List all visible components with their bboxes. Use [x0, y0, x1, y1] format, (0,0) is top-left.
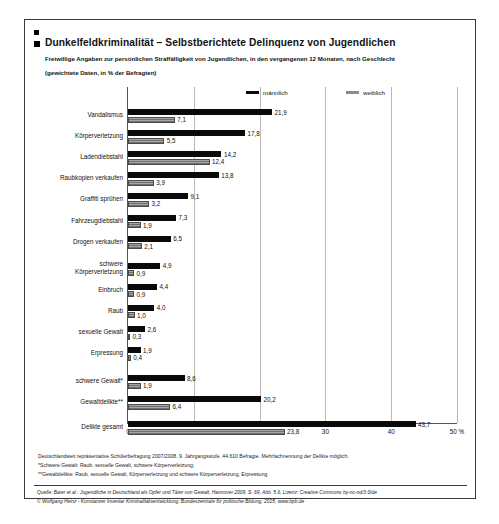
category-label: Ladendiebstahl: [36, 153, 128, 161]
legend-item-männlich: männlich: [246, 89, 288, 96]
chart-header: Dunkelfeldkriminalität – Selbstberichtet…: [25, 20, 475, 78]
legend-swatch-icon: [346, 91, 359, 94]
legend-label: weiblich: [363, 89, 385, 96]
bar-value-label: 1,0: [137, 313, 146, 319]
category-label: Raub: [36, 307, 128, 315]
bar-weiblich: [128, 429, 285, 435]
bar-weiblich: [128, 312, 135, 318]
bar-value-label: 8,6: [187, 376, 196, 382]
category-label: Graffiti sprühen: [36, 195, 128, 203]
bar-weiblich: [128, 383, 141, 389]
bar-group: Ladendiebstahl14,212,4: [128, 151, 457, 166]
bar-männlich: [128, 130, 245, 136]
bar-männlich: [128, 215, 176, 221]
note-line-1: Deutschlandweit repräsentative Schülerbe…: [38, 452, 465, 461]
bar-value-label: 1,9: [143, 223, 152, 229]
bar-weiblich: [128, 117, 175, 123]
bar-value-label: 1,9: [143, 348, 152, 354]
bar-weiblich: [128, 243, 142, 249]
category-label: schwere Gewalt*: [36, 377, 128, 385]
gridline-50: [457, 87, 458, 423]
screenshot-page: Dunkelfeldkriminalität – Selbstberichtet…: [0, 0, 499, 524]
bar-weiblich: [128, 180, 154, 186]
bar-value-label: 4,9: [163, 263, 172, 269]
bar-weiblich: [128, 404, 170, 410]
chart-subtitle-line-2: (gewichtete Daten, in % der Befragten): [45, 68, 465, 77]
bar-group: Delikte gesamt43,723,8: [128, 421, 457, 436]
category-label: Drogen verkaufen: [36, 238, 128, 246]
legend-label: männlich: [263, 89, 288, 96]
category-label: Delikte gesamt: [36, 423, 128, 431]
bar-group: schwere Körperverletzung4,90,9: [128, 263, 457, 278]
bar-value-label: 23,8: [287, 429, 299, 435]
bar-value-label: 4,0: [157, 305, 166, 311]
bar-männlich: [128, 109, 272, 115]
note-line-2: *Schwere Gewalt: Raub, sexuelle Gewalt, …: [38, 461, 465, 470]
bar-männlich: [128, 193, 188, 199]
bar-männlich: [128, 347, 141, 353]
source-line-1: Quelle: Baier et al.: Jugendliche in Deu…: [37, 489, 465, 498]
bar-männlich: [128, 326, 145, 332]
category-label: Fahrzeugdiebstahl: [36, 217, 128, 225]
bar-value-label: 43,7: [418, 422, 430, 428]
bar-value-label: 0,9: [136, 271, 145, 277]
bar-value-label: 0,3: [133, 334, 142, 340]
bar-weiblich: [128, 138, 164, 144]
bar-group: Erpressung1,90,4: [128, 347, 457, 362]
category-label: Gewaltdelikte**: [36, 398, 128, 406]
bar-value-label: 5,5: [167, 138, 176, 144]
bar-group: Einbruch4,40,9: [128, 284, 457, 299]
bar-männlich: [128, 396, 261, 402]
chart-notes: Deutschlandweit repräsentative Schülerbe…: [38, 452, 465, 479]
category-label: Erpressung: [36, 349, 128, 357]
bar-group: Fahrzeugdiebstahl7,31,9: [128, 215, 457, 230]
bar-value-label: 9,1: [190, 194, 199, 200]
bar-value-label: 6,4: [173, 404, 182, 410]
bar-value-label: 6,5: [173, 236, 182, 242]
bar-männlich: [128, 172, 219, 178]
bar-weiblich: [128, 222, 141, 228]
bar-value-label: 3,9: [156, 180, 165, 186]
bar-group: sexuelle Gewalt2,60,3: [128, 326, 457, 341]
category-label: sexuelle Gewalt: [36, 328, 128, 336]
legend-swatch-icon: [246, 91, 259, 94]
bar-männlich: [128, 284, 157, 290]
bar-männlich: [128, 236, 171, 242]
bar-group: Raubkopien verkaufen13,83,9: [128, 172, 457, 187]
bar-weiblich: [128, 355, 131, 361]
category-label: Körperverletzung: [36, 132, 128, 140]
bar-value-label: 7,1: [177, 117, 186, 123]
bar-männlich: [128, 421, 416, 427]
plot-area: 01020304050 %männlichweiblichVandalismus…: [127, 87, 457, 424]
bar-männlich: [128, 151, 221, 157]
bar-group: Gewaltdelikte**20,26,4: [128, 396, 457, 411]
bar-männlich: [128, 375, 185, 381]
bar-weiblich: [128, 201, 149, 207]
bar-group: Raub4,01,0: [128, 305, 457, 320]
bar-value-label: 0,9: [136, 292, 145, 298]
bar-group: schwere Gewalt*8,61,9: [128, 375, 457, 390]
bar-value-label: 12,4: [212, 159, 224, 165]
bar-value-label: 7,3: [179, 215, 188, 221]
square-bullet-icon: [34, 30, 39, 35]
category-label: Raubkopien verkaufen: [36, 174, 128, 182]
bar-chart: 01020304050 %männlichweiblichVandalismus…: [34, 81, 468, 443]
category-label: schwere Körperverletzung: [36, 260, 128, 276]
bar-value-label: 20,2: [263, 397, 275, 403]
bar-value-label: 17,8: [248, 131, 260, 137]
bar-value-label: 2,1: [144, 244, 153, 250]
page-title: Dunkelfeldkriminalität – Selbstberichtet…: [45, 37, 396, 49]
bar-value-label: 1,9: [143, 383, 152, 389]
category-label: Einbruch: [36, 286, 128, 294]
title-row: Dunkelfeldkriminalität – Selbstberichtet…: [34, 37, 465, 49]
legend-item-weiblich: weiblich: [346, 89, 385, 96]
note-line-3: **Gewaltdelikte: Raub, sexuelle Gewalt, …: [38, 470, 465, 479]
bar-value-label: 21,9: [275, 110, 287, 116]
chart-subtitle-line-1: Freiwillige Angaben zur persönlichen Str…: [45, 54, 465, 63]
bar-weiblich: [128, 291, 134, 297]
source-block: Quelle: Baier et al.: Jugendliche in Deu…: [34, 485, 467, 506]
infographic-frame: Dunkelfeldkriminalität – Selbstberichtet…: [24, 19, 476, 499]
header-bullet-top: [34, 30, 465, 35]
bar-value-label: 2,6: [148, 327, 157, 333]
bar-weiblich: [128, 270, 134, 276]
